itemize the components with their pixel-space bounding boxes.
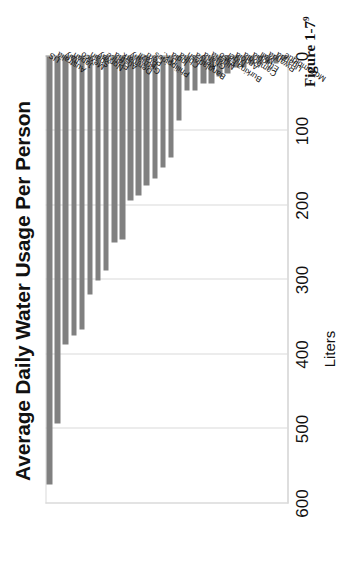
bar-row: [166, 56, 174, 503]
bar: [103, 56, 109, 270]
bar: [71, 56, 77, 335]
bar-row: [264, 56, 272, 503]
bar-row: [77, 56, 85, 503]
bar-row: [199, 56, 207, 503]
figure-caption-label: Figure 1-7: [301, 21, 317, 87]
bar: [46, 56, 52, 484]
bar: [160, 56, 166, 167]
bar: [87, 56, 93, 294]
bar-row: [183, 56, 191, 503]
figure-caption-footnote: 9: [300, 16, 310, 21]
bar-row: [110, 56, 118, 503]
bar-row: [215, 56, 223, 503]
bar: [111, 56, 117, 242]
value-tick-400: 400: [292, 340, 312, 368]
bar-row: [102, 56, 110, 503]
rotated-figure-wrapper: Average Daily Water Usage Per Person 010…: [0, 0, 351, 581]
bar-row: [61, 56, 69, 503]
bar-row: [69, 56, 77, 503]
bar-row: [53, 56, 61, 503]
chart-title: Average Daily Water Usage Per Person: [10, 0, 34, 581]
bar: [79, 56, 85, 329]
bar: [54, 56, 60, 423]
value-tick-600: 600: [292, 489, 312, 517]
bar-row: [231, 56, 239, 503]
bar-row: [150, 56, 158, 503]
plot-area: [45, 56, 288, 503]
bar-row: [85, 56, 93, 503]
bar-row: [223, 56, 231, 503]
bar: [95, 56, 101, 280]
bar-row: [175, 56, 183, 503]
value-tick-500: 500: [292, 414, 312, 442]
bar-row: [272, 56, 280, 503]
bar-row: [239, 56, 247, 503]
bar-row: [207, 56, 215, 503]
value-axis-tick-labels: 0100200300400500600: [292, 56, 318, 503]
bar-row: [247, 56, 255, 503]
bar: [119, 56, 125, 239]
bar-row: [255, 56, 263, 503]
bar-row: [191, 56, 199, 503]
bar-series: [45, 56, 288, 503]
value-axis-title-wrap: Liters: [320, 0, 337, 581]
bar-row: [142, 56, 150, 503]
figure-container: Average Daily Water Usage Per Person 010…: [0, 0, 351, 581]
bar: [62, 56, 68, 344]
bar-row: [280, 56, 288, 503]
bar: [127, 56, 133, 200]
bar-row: [45, 56, 53, 503]
bar-row: [118, 56, 126, 503]
bar-row: [94, 56, 102, 503]
bar-row: [126, 56, 134, 503]
bar-row: [158, 56, 166, 503]
value-tick-100: 100: [292, 116, 312, 144]
value-tick-200: 200: [292, 191, 312, 219]
value-axis-title: Liters: [320, 330, 337, 367]
bar-row: [134, 56, 142, 503]
figure-caption: Figure 1-79: [300, 16, 318, 86]
value-tick-300: 300: [292, 265, 312, 293]
bar: [135, 56, 141, 195]
